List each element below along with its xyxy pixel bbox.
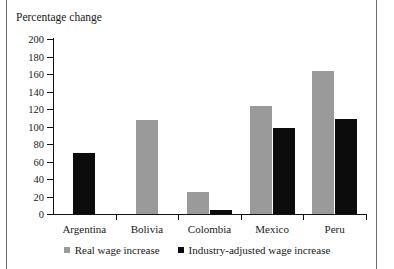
bar-colombia-real xyxy=(187,192,209,214)
y-axis-tick xyxy=(47,127,53,128)
y-axis-tick xyxy=(47,214,53,215)
legend-item-industry-adjusted[interactable]: Industry-adjusted wage increase xyxy=(178,243,331,257)
legend-swatch-icon xyxy=(178,247,184,253)
y-axis-tick-label: 160 xyxy=(28,69,44,80)
y-axis-tick-label: 120 xyxy=(28,104,44,115)
legend-item-real-wage[interactable]: Real wage increase xyxy=(64,243,160,257)
y-axis-tick xyxy=(47,162,53,163)
chart-legend: Real wage increaseIndustry-adjusted wage… xyxy=(0,243,394,257)
y-axis-tick-label: 40 xyxy=(34,174,45,185)
x-axis-labels: ArgentinaBoliviaColombiaMexicoPeru xyxy=(53,222,366,238)
y-axis-tick-label: 0 xyxy=(39,209,44,220)
y-axis-tick-label: 80 xyxy=(34,139,45,150)
x-axis-tick xyxy=(303,215,304,220)
chart-figure: Percentage change 0204060801001201401601… xyxy=(0,0,394,269)
bar-mexico-real xyxy=(250,106,272,214)
x-axis-tick xyxy=(116,215,117,220)
x-axis-label-bolivia: Bolivia xyxy=(131,222,163,236)
legend-item-label: Industry-adjusted wage increase xyxy=(189,243,331,257)
figure-right-rule xyxy=(376,0,377,269)
plot-area xyxy=(53,39,366,214)
bar-bolivia-real xyxy=(136,120,158,214)
bar-argentina-adjusted xyxy=(73,153,95,214)
y-axis-tick xyxy=(47,179,53,180)
x-axis-tick xyxy=(366,215,367,220)
y-axis-tick-label: 20 xyxy=(34,191,45,202)
y-axis-tick-label: 60 xyxy=(34,156,45,167)
y-axis-tick xyxy=(47,92,53,93)
y-axis-tick xyxy=(47,109,53,110)
x-axis-label-mexico: Mexico xyxy=(255,222,289,236)
legend-swatch-icon xyxy=(64,247,70,253)
bar-mexico-adjusted xyxy=(273,128,295,214)
x-axis-line xyxy=(53,214,367,215)
x-axis-label-peru: Peru xyxy=(325,222,345,236)
x-axis-tick xyxy=(178,215,179,220)
y-axis-tick-label: 200 xyxy=(28,34,44,45)
y-axis-tick xyxy=(47,74,53,75)
y-axis-tick xyxy=(47,144,53,145)
x-axis-label-colombia: Colombia xyxy=(188,222,231,236)
legend-item-label: Real wage increase xyxy=(75,243,160,257)
y-axis-tick-label: 180 xyxy=(28,51,44,62)
y-axis-tick xyxy=(47,39,53,40)
x-axis-tick xyxy=(241,215,242,220)
x-axis-label-argentina: Argentina xyxy=(62,222,106,236)
y-axis-tick-label: 100 xyxy=(28,121,44,132)
y-axis-tick-label: 140 xyxy=(28,86,44,97)
y-axis-tick xyxy=(47,197,53,198)
bar-peru-adjusted xyxy=(335,119,357,214)
y-axis-tick xyxy=(47,57,53,58)
bar-colombia-adjusted xyxy=(210,210,232,214)
bar-peru-real xyxy=(312,71,334,214)
y-axis-labels: 020406080100120140160180200 xyxy=(0,0,44,269)
